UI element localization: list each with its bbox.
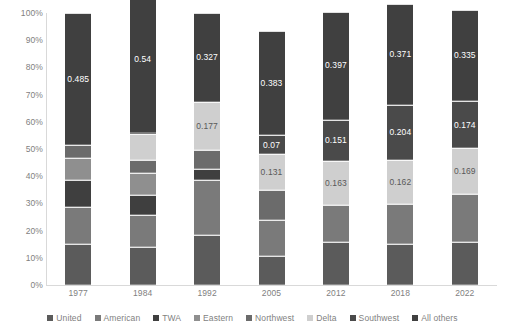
y-axis-tick-label: 50% <box>3 144 43 154</box>
y-axis-tick-label: 80% <box>3 62 43 72</box>
legend-item[interactable]: Southwest <box>350 313 400 323</box>
bar-column[interactable]: 0.1620.2040.371 <box>387 13 413 285</box>
y-axis-tick-label: 0% <box>3 280 43 290</box>
legend-swatch-icon <box>95 315 101 321</box>
bar-segment[interactable] <box>65 145 91 158</box>
x-axis-tick-labels: 1977198419922005201220182022 <box>46 288 497 304</box>
bar-segment[interactable] <box>130 195 156 216</box>
x-axis-line <box>46 285 497 286</box>
legend-item[interactable]: Delta <box>307 313 336 323</box>
bar-segment[interactable] <box>130 160 156 173</box>
bar-segment[interactable] <box>130 134 156 160</box>
bar-segment[interactable] <box>194 235 220 285</box>
bar-segment[interactable]: 0.174 <box>452 101 478 148</box>
bar-segment[interactable]: 0.383 <box>259 31 285 135</box>
bar-segment[interactable] <box>65 158 91 181</box>
y-axis-tick-label: 70% <box>3 90 43 100</box>
legend-label: American <box>104 313 141 323</box>
legend-item[interactable]: Eastern <box>194 313 233 323</box>
bar-segment-value-label: 0.204 <box>389 128 411 137</box>
bar-segment[interactable] <box>323 242 349 285</box>
bar-segment[interactable] <box>130 173 156 195</box>
y-axis-tick-label: 20% <box>3 226 43 236</box>
bar-segment[interactable]: 0.163 <box>323 161 349 205</box>
x-axis-tick-label: 1977 <box>69 288 88 298</box>
bar-segment[interactable]: 0.204 <box>387 105 413 160</box>
bar-segment-value-label: 0.131 <box>261 168 283 177</box>
bar-segment[interactable]: 0.327 <box>194 13 220 102</box>
bar-column[interactable]: 0.54 <box>130 13 156 285</box>
y-axis-tick-label: 100% <box>3 8 43 18</box>
bar-segment[interactable] <box>259 190 285 220</box>
bar-segment-value-label: 0.371 <box>389 50 411 59</box>
legend-swatch-icon <box>246 315 252 321</box>
bar-segment[interactable] <box>130 247 156 285</box>
bar-column[interactable]: 0.1690.1740.335 <box>452 13 478 285</box>
legend-label: All others <box>421 313 457 323</box>
bar-segment[interactable]: 0.54 <box>130 0 156 133</box>
legend-label: Eastern <box>203 313 233 323</box>
x-axis-tick-label: 1984 <box>133 288 152 298</box>
bar-segment[interactable] <box>259 256 285 285</box>
legend-swatch-icon <box>47 315 53 321</box>
bar-segment[interactable]: 0.162 <box>387 160 413 204</box>
bar-segment[interactable] <box>452 194 478 242</box>
legend-item[interactable]: United <box>47 313 81 323</box>
x-axis-tick-label: 2022 <box>455 288 474 298</box>
chart-legend: UnitedAmericanTWAEasternNorthwestDeltaSo… <box>0 310 505 326</box>
bar-segment-value-label: 0.07 <box>263 141 280 150</box>
legend-item[interactable]: Northwest <box>246 313 294 323</box>
legend-label: TWA <box>162 313 181 323</box>
bar-segment-value-label: 0.162 <box>389 178 411 187</box>
bar-segment[interactable] <box>259 220 285 256</box>
legend-item[interactable]: All others <box>412 313 457 323</box>
bar-segment[interactable] <box>65 207 91 244</box>
bar-column[interactable]: 0.485 <box>65 13 91 285</box>
y-axis-tick-label: 90% <box>3 35 43 45</box>
legend-swatch-icon <box>194 315 200 321</box>
legend-label: United <box>56 313 81 323</box>
bar-segment-value-label: 0.177 <box>196 122 218 131</box>
legend-label: Northwest <box>255 313 294 323</box>
bar-segment[interactable] <box>65 244 91 285</box>
bar-segment[interactable]: 0.151 <box>323 120 349 161</box>
bar-segment[interactable] <box>387 244 413 285</box>
y-axis-tick-label: 40% <box>3 171 43 181</box>
bar-segment-value-label: 0.335 <box>454 51 476 60</box>
legend-swatch-icon <box>350 315 356 321</box>
legend-label: Delta <box>316 313 336 323</box>
bar-segment[interactable] <box>194 169 220 180</box>
legend-swatch-icon <box>412 315 418 321</box>
x-axis-tick-label: 1992 <box>197 288 216 298</box>
bar-segment[interactable]: 0.169 <box>452 148 478 194</box>
bar-segment[interactable]: 0.485 <box>65 13 91 145</box>
legend-swatch-icon <box>153 315 159 321</box>
x-axis-tick-label: 2005 <box>262 288 281 298</box>
bar-segment[interactable] <box>194 150 220 169</box>
bar-segment[interactable] <box>130 215 156 247</box>
bar-segment[interactable] <box>194 180 220 234</box>
bar-segment-value-label: 0.163 <box>325 179 347 188</box>
bar-segment[interactable]: 0.397 <box>323 12 349 120</box>
x-axis-tick-label: 2012 <box>326 288 345 298</box>
bar-segment[interactable] <box>387 204 413 244</box>
legend-item[interactable]: TWA <box>153 313 181 323</box>
bar-segment[interactable] <box>323 205 349 242</box>
bar-segment[interactable]: 0.131 <box>259 154 285 190</box>
bar-segment[interactable] <box>452 242 478 285</box>
bar-segment[interactable]: 0.177 <box>194 102 220 150</box>
bar-segment-value-label: 0.485 <box>67 75 89 84</box>
bar-segment-value-label: 0.54 <box>134 55 151 64</box>
bar-segment-value-label: 0.383 <box>261 79 283 88</box>
bar-segment[interactable] <box>65 180 91 207</box>
bar-segment[interactable]: 0.371 <box>387 4 413 105</box>
bar-column[interactable]: 0.1310.070.383 <box>259 13 285 285</box>
bar-column[interactable]: 0.1630.1510.397 <box>323 13 349 285</box>
legend-item[interactable]: American <box>95 313 141 323</box>
legend-swatch-icon <box>307 315 313 321</box>
bar-segment[interactable]: 0.07 <box>259 135 285 154</box>
bar-column[interactable]: 0.1770.327 <box>194 13 220 285</box>
stacked-bar-chart: 0%10%20%30%40%50%60%70%80%90%100% 0.4850… <box>0 0 505 333</box>
bar-segment[interactable]: 0.335 <box>452 10 478 101</box>
y-axis-tick-labels: 0%10%20%30%40%50%60%70%80%90%100% <box>0 13 43 285</box>
